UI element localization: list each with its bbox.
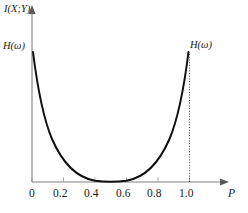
right-endpoint-label: H(ω) xyxy=(190,40,212,51)
x-tick-label-1: 0.2 xyxy=(53,188,68,200)
x-tick-label-5: 1.0 xyxy=(179,188,194,200)
x-axis-arrowhead xyxy=(220,179,229,186)
x-tick-label-3: 0.6 xyxy=(116,188,131,200)
mutual-information-curve xyxy=(33,52,189,182)
x-tick-label-4: 0.8 xyxy=(147,188,162,200)
plot-canvas xyxy=(0,0,248,213)
x-tick-label-2: 0.4 xyxy=(84,188,99,200)
x-axis-label: P xyxy=(228,188,235,200)
left-endpoint-label: H(ω) xyxy=(3,41,25,52)
x-tick-label-0: 0 xyxy=(29,188,35,200)
mutual-information-figure: I(X;Y) P H(ω) H(ω) 0 0.2 0.4 0.6 0.8 1.0 xyxy=(0,0,248,213)
y-axis-label: I(X;Y) xyxy=(4,4,30,15)
